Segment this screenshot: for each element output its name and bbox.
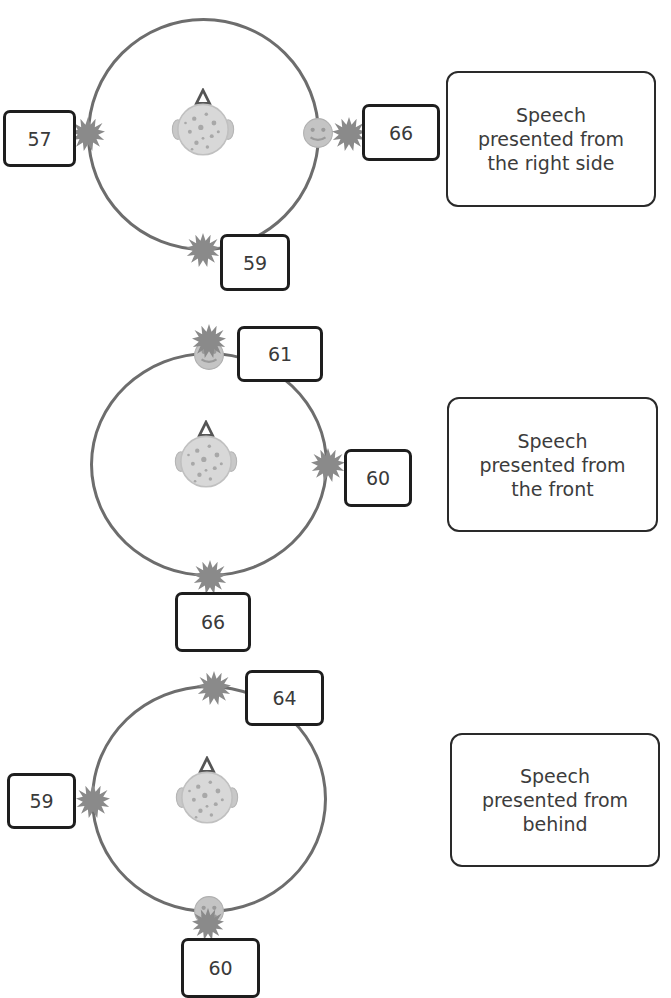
value-box-back: 60 bbox=[181, 938, 260, 998]
listener-head-icon bbox=[174, 756, 240, 826]
caption-line: presented from bbox=[482, 788, 628, 812]
value-box-left: 59 bbox=[7, 773, 76, 829]
caption-box: Speech presented from behind bbox=[450, 733, 660, 867]
caption-line: behind bbox=[482, 812, 628, 836]
caption-line: Speech bbox=[482, 764, 628, 788]
noise-burst-icon bbox=[192, 908, 224, 940]
noise-burst-icon bbox=[197, 671, 231, 705]
value-box-front: 64 bbox=[245, 670, 324, 726]
noise-burst-icon bbox=[76, 784, 110, 818]
